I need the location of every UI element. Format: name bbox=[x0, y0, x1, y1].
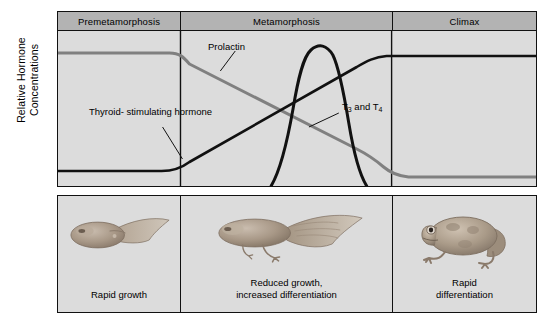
froglet-icon bbox=[393, 200, 536, 272]
leader-line-tsh bbox=[163, 127, 183, 159]
curve-label-prolactin: Prolactin bbox=[208, 41, 245, 53]
specimen-panel-metamorphosis: Reduced growth, increased differentiatio… bbox=[181, 196, 393, 312]
curve-label-tsh-line-2: stimulating bbox=[126, 106, 171, 117]
t3t4-mid: and T bbox=[352, 101, 379, 112]
caption-premetamorphosis-line-1: Rapid growth bbox=[58, 289, 180, 301]
specimen-panel-row: Rapid growth bbox=[57, 195, 537, 313]
t3t4-sub-3: 3 bbox=[348, 106, 352, 113]
caption-premetamorphosis: Rapid growth bbox=[58, 289, 180, 312]
caption-climax: Rapid differentiation bbox=[393, 277, 536, 312]
chart-block: Premetamorphosis Metamorphosis Climax bbox=[57, 11, 537, 187]
stage-header-metamorphosis: Metamorphosis bbox=[181, 12, 393, 30]
caption-climax-line-1: Rapid bbox=[393, 277, 536, 289]
t3t4-sub-4: 4 bbox=[378, 106, 382, 113]
specimen-panel-climax: Rapid differentiation bbox=[393, 196, 536, 312]
caption-metamorphosis-line-1: Reduced growth, bbox=[181, 277, 392, 289]
y-axis-label: Relative Hormone Concentrations bbox=[0, 5, 56, 155]
curve-label-t3-and-t4: T3 and T4 bbox=[342, 101, 382, 113]
tadpole-icon bbox=[58, 200, 180, 272]
plot-area: Prolactin Thyroid- stimulating hormone T… bbox=[58, 31, 536, 186]
hormone-metamorphosis-figure: Relative Hormone Concentrations Premetam… bbox=[0, 0, 545, 324]
tadpole-with-limbs-icon bbox=[181, 200, 392, 272]
leader-line-t3t4 bbox=[309, 113, 339, 127]
stage-header-row: Premetamorphosis Metamorphosis Climax bbox=[58, 12, 536, 31]
curve-label-tsh-line-3: hormone bbox=[175, 106, 213, 117]
stage-header-premetamorphosis: Premetamorphosis bbox=[58, 12, 181, 30]
curve-label-tsh: Thyroid- stimulating hormone bbox=[89, 106, 212, 118]
stage-header-climax: Climax bbox=[393, 12, 536, 30]
leader-line-prolactin bbox=[220, 51, 235, 71]
caption-climax-line-2: differentiation bbox=[393, 289, 536, 301]
specimen-panel-premetamorphosis: Rapid growth bbox=[58, 196, 181, 312]
y-axis-label-line-1: Relative Hormone bbox=[15, 37, 28, 123]
y-axis-label-line-2: Concentrations bbox=[28, 44, 41, 116]
curve-label-tsh-line-1: Thyroid- bbox=[89, 106, 124, 117]
caption-metamorphosis: Reduced growth, increased differentiatio… bbox=[181, 277, 392, 312]
caption-metamorphosis-line-2: increased differentiation bbox=[181, 289, 392, 301]
t3t4-prefix: T bbox=[342, 101, 348, 112]
curve-t3-and-t4 bbox=[271, 46, 367, 186]
